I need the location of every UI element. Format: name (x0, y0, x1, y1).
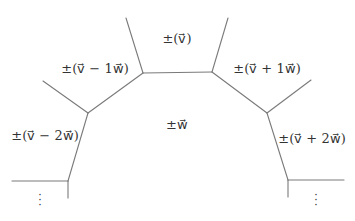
region-label-plus-2w: ±(v⃗ + 2w⃗) (278, 132, 345, 145)
region-label-center: ±w⃗ (166, 118, 188, 131)
edge-line (43, 81, 88, 113)
continuation-dots-left: ··· (38, 193, 42, 208)
edge-line (88, 73, 143, 113)
continuation-dots-right: ··· (314, 193, 318, 208)
edge-line (267, 113, 288, 180)
edge-line (143, 72, 212, 73)
region-label-minus-2w: ±(v⃗ − 2w⃗) (11, 129, 78, 142)
edge-line (212, 18, 228, 72)
region-label-plus-1w: ±(v⃗ + 1w⃗) (233, 62, 300, 75)
edge-line (68, 113, 88, 181)
edge-line (267, 80, 311, 113)
region-label-minus-1w: ±(v⃗ − 1w⃗) (61, 62, 128, 75)
edge-line (212, 72, 267, 113)
region-label-top: ±(v⃗) (162, 32, 191, 45)
